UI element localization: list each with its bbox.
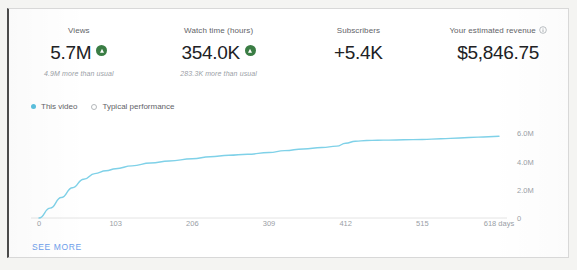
y-axis-tick-label: 4.0M: [517, 158, 534, 167]
metric-value: +5.4K: [289, 42, 429, 64]
metric-label-text: Your estimated revenue: [449, 26, 535, 35]
metric-label: Subscribers: [337, 26, 380, 35]
metric-subscribers: Subscribers +5.4K: [289, 19, 429, 85]
metric-estimated-revenue: Your estimated revenue $5,846.75: [428, 19, 568, 85]
metric-value-text: 5.7M: [50, 42, 91, 63]
legend-dot-icon: [31, 104, 36, 109]
legend-label: This video: [41, 102, 77, 111]
metrics-row: Views 5.7M 4.9M more than usual Watch ti…: [9, 19, 568, 85]
x-axis-tick-label: 618 days: [484, 219, 514, 228]
chart-canvas: 02.0M4.0M6.0M: [9, 117, 569, 222]
metric-label: Watch time (hours): [184, 26, 253, 35]
metric-watch-time: Watch time (hours) 354.0K 283.3K more th…: [149, 19, 289, 85]
x-axis-tick-label: 103: [109, 219, 122, 228]
views-line-chart[interactable]: 02.0M4.0M6.0M: [9, 117, 569, 222]
x-axis-tick-label: 412: [339, 219, 352, 228]
metric-value: 5.7M: [9, 42, 149, 64]
metric-label: Views: [68, 26, 90, 35]
legend-dot-icon: [91, 104, 97, 110]
metric-value: $5,846.75: [428, 42, 568, 64]
trend-up-icon: [96, 45, 107, 56]
trend-up-icon: [245, 45, 256, 56]
legend-item-this-video[interactable]: This video: [31, 102, 77, 111]
x-axis-tick-label: 0: [37, 219, 41, 228]
chart-x-axis: 0103206309412515618 days: [9, 219, 569, 233]
see-more-link[interactable]: SEE MORE: [32, 242, 82, 252]
y-axis-tick-label: 2.0M: [517, 186, 534, 195]
chart-legend: This video Typical performance: [31, 102, 175, 111]
info-icon[interactable]: [539, 26, 547, 34]
metric-label: Your estimated revenue: [449, 26, 546, 35]
x-axis-tick-label: 515: [416, 219, 429, 228]
analytics-card: Views 5.7M 4.9M more than usual Watch ti…: [7, 8, 569, 258]
metric-views: Views 5.7M 4.9M more than usual: [9, 19, 149, 85]
metric-subtext: 283.3K more than usual: [149, 70, 289, 77]
metric-subtext: 4.9M more than usual: [9, 70, 149, 77]
chart-line-this-video: [39, 136, 499, 218]
y-axis-tick-label: 6.0M: [517, 129, 534, 138]
metric-value-text: 354.0K: [181, 42, 239, 63]
metric-value-text: +5.4K: [334, 42, 383, 63]
legend-item-typical-performance[interactable]: Typical performance: [91, 102, 174, 111]
x-axis-tick-label: 206: [186, 219, 199, 228]
x-axis-tick-label: 309: [263, 219, 276, 228]
metric-value-text: $5,846.75: [457, 42, 539, 63]
metric-value: 354.0K: [149, 42, 289, 64]
legend-label: Typical performance: [102, 102, 174, 111]
